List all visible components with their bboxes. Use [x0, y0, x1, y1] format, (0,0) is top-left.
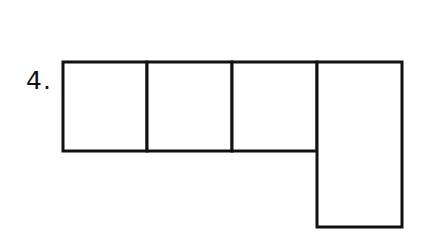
- square-1: [63, 62, 147, 151]
- square-2: [147, 62, 232, 151]
- square-3: [232, 62, 317, 151]
- shape-figure: [0, 0, 445, 240]
- tall-rectangle: [317, 62, 402, 227]
